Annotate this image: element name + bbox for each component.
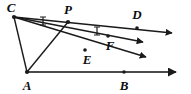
segment-a-p bbox=[27, 22, 68, 72]
point-dot-d bbox=[135, 26, 139, 30]
segment-c-a bbox=[14, 17, 27, 72]
label-point-f: F bbox=[106, 39, 115, 52]
label-point-a: A bbox=[23, 79, 32, 92]
ray-c-p-d bbox=[14, 17, 172, 33]
point-dot-c bbox=[12, 15, 16, 19]
ray-c-f bbox=[14, 17, 143, 42]
point-dot-b bbox=[122, 70, 126, 74]
label-point-c: C bbox=[7, 1, 16, 14]
point-dot-a bbox=[25, 70, 29, 74]
label-point-b: B bbox=[120, 79, 129, 92]
label-point-p: P bbox=[64, 3, 72, 16]
label-point-d: D bbox=[132, 8, 141, 21]
geometry-figure: C P D F E A B bbox=[0, 0, 191, 94]
label-point-e: E bbox=[83, 53, 92, 66]
point-dot-p bbox=[66, 20, 70, 24]
